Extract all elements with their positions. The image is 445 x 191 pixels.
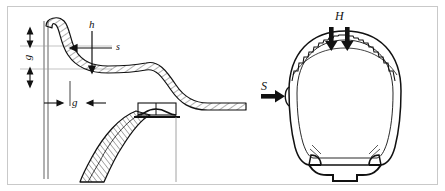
label-rim-section: s (116, 42, 120, 52)
vertical-load-arrow-left (325, 27, 337, 51)
tyre-bead-hatching (310, 145, 380, 157)
rim-profile-drawing (8, 7, 253, 186)
tyre-section-drawing (253, 7, 437, 186)
axis-reference-lines (44, 21, 48, 179)
figure-container: h s g g (0, 0, 445, 191)
wheel-disc-wall (80, 111, 150, 182)
label-flange-height: h (89, 19, 95, 30)
label-horizontal-dimension: g (72, 97, 78, 108)
rim-profile-panel: h s g g (8, 7, 253, 186)
tyre-bead-seats (309, 165, 381, 181)
label-vertical-dimension: g (22, 55, 33, 61)
tyre-outer-outline (289, 31, 401, 165)
label-lateral-load: S (261, 80, 267, 92)
tyre-inner-outline (297, 40, 393, 158)
label-vertical-load: H (335, 10, 344, 22)
tyre-section-panel: H S (253, 7, 437, 186)
figure-frame: h s g g (7, 6, 438, 185)
